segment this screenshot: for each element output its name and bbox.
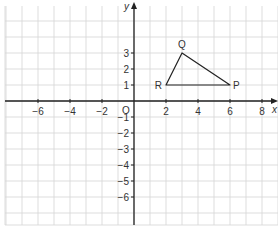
x-tick-label: −4	[64, 106, 76, 117]
vertex-label-q: Q	[178, 39, 186, 50]
x-tick-label: −2	[96, 106, 108, 117]
origin-label: O	[122, 105, 130, 116]
grid-lines	[5, 6, 278, 225]
y-tick-label: −6	[118, 192, 130, 203]
y-tick-label: 3	[123, 48, 129, 59]
y-tick-label: −2	[118, 128, 130, 139]
y-axis-label: y	[123, 1, 130, 12]
y-axis-arrow-icon	[131, 2, 137, 9]
vertex-label-p: P	[233, 80, 240, 91]
x-tick-label: 6	[227, 106, 233, 117]
y-tick-labels: 321−1−2−3−4−5−6	[118, 48, 130, 203]
y-tick-label: −5	[118, 176, 130, 187]
x-tick-labels: −6−4−22468	[32, 106, 265, 117]
y-tick-label: 2	[123, 64, 129, 75]
x-tick-label: 2	[163, 106, 169, 117]
x-tick-label: −6	[32, 106, 44, 117]
x-tick-label: 4	[195, 106, 201, 117]
x-axis-label: x	[271, 104, 278, 115]
y-tick-label: −3	[118, 144, 130, 155]
x-tick-label: 8	[259, 106, 265, 117]
coordinate-plane: −6−4−22468 321−1−2−3−4−5−6 O x y PQR	[0, 0, 278, 231]
y-tick-label: −4	[118, 160, 130, 171]
y-tick-label: 1	[123, 80, 129, 91]
vertex-label-r: R	[155, 80, 162, 91]
